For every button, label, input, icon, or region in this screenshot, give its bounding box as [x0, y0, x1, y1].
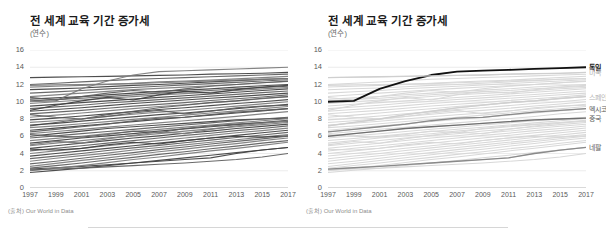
- y-axis-tick: 14: [2, 62, 24, 71]
- y-axis-tick: 16: [300, 45, 322, 54]
- y-axis-tick: 4: [2, 149, 24, 158]
- axis-unit-label: (연수): [30, 27, 49, 38]
- line-chart-left: [30, 50, 288, 188]
- page-title: 전 세계 교육 기간 증가세: [30, 12, 150, 28]
- y-axis-tick: 16: [2, 45, 24, 54]
- y-axis-tick: 10: [300, 97, 322, 106]
- y-axis-tick: 10: [2, 97, 24, 106]
- line-chart-right: [328, 50, 586, 188]
- series-label-중국: 중국: [589, 113, 601, 123]
- series-label-네팔: 네팔: [589, 142, 601, 152]
- panel-right: 전 세계 교육 기간 증가세 (연수) 0246810121416 199719…: [298, 0, 596, 236]
- y-axis-tick: 2: [2, 166, 24, 175]
- axis-unit-label-right: (연수): [328, 27, 347, 38]
- series-label-미국: 미국: [589, 67, 601, 77]
- source-note-right: (출처) Our World in Data: [306, 206, 372, 215]
- y-axis-tick: 4: [300, 149, 322, 158]
- y-axis-tick: 2: [300, 166, 322, 175]
- x-axis-tick: 2017: [571, 191, 601, 198]
- panel-left: 전 세계 교육 기간 증가세 (연수) 0246810121416 199719…: [0, 0, 298, 236]
- y-axis-tick: 8: [300, 114, 322, 123]
- series-label-스페인: 스페인: [589, 92, 606, 102]
- figure-footer-divider: [88, 227, 508, 228]
- y-axis-tick: 6: [2, 131, 24, 140]
- y-axis-tick: 8: [2, 114, 24, 123]
- y-axis-tick: 6: [300, 131, 322, 140]
- y-axis-tick: 12: [300, 80, 322, 89]
- page-title-right: 전 세계 교육 기간 증가세: [328, 12, 448, 28]
- plot-area-left: [30, 50, 288, 188]
- plot-area-right: [328, 50, 586, 188]
- panel-separator: [297, 30, 298, 200]
- y-axis-tick: 12: [2, 80, 24, 89]
- source-note-left: (출처) Our World in Data: [8, 206, 74, 215]
- y-axis-tick: 14: [300, 62, 322, 71]
